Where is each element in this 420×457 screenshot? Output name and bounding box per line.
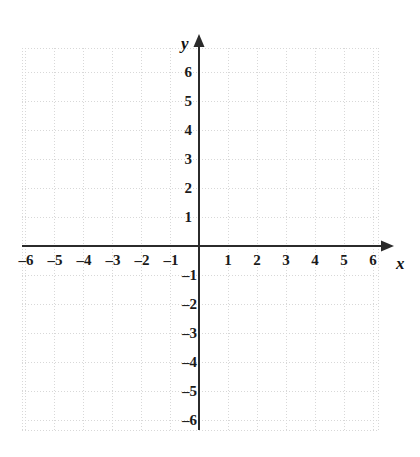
x-tick-label: 2 [253, 253, 261, 268]
x-tick-label: 3 [282, 253, 290, 268]
coordinate-plane-figure: –6–5–4–3–2–1123456654321–1–2–3–4–5–6 y x [0, 0, 420, 457]
y-tick-label: 6 [185, 65, 193, 80]
y-tick-label: –3 [182, 326, 197, 341]
x-tick-label: –4 [77, 253, 92, 268]
x-tick-label: 5 [340, 253, 348, 268]
x-tick-label: –3 [106, 253, 121, 268]
y-tick-label: 5 [185, 94, 193, 109]
y-tick-label: –6 [182, 413, 197, 428]
y-tick-label: 1 [185, 210, 193, 225]
y-tick-label: –1 [182, 268, 197, 283]
y-tick-label: 4 [185, 123, 193, 138]
x-tick-label: 6 [369, 253, 377, 268]
x-tick-label: –6 [19, 253, 34, 268]
y-tick-label: –5 [182, 384, 197, 399]
x-axis-label: x [396, 255, 405, 272]
y-tick-label: 2 [185, 181, 193, 196]
x-tick-label: –2 [135, 253, 150, 268]
x-tick-label: 1 [224, 253, 232, 268]
grid-and-axes [0, 0, 420, 457]
axes [22, 34, 394, 430]
y-tick-label: 3 [185, 152, 193, 167]
x-tick-label: 4 [311, 253, 319, 268]
y-axis-label: y [181, 35, 189, 52]
x-tick-label: –1 [164, 253, 179, 268]
y-tick-label: –4 [182, 355, 197, 370]
x-tick-label: –5 [48, 253, 63, 268]
y-tick-label: –2 [182, 297, 197, 312]
